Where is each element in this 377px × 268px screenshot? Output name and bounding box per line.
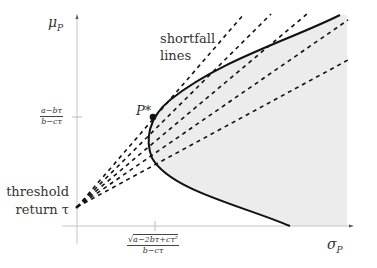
y-axis-label-sub: P bbox=[57, 23, 63, 33]
x-axis-label: σP bbox=[327, 236, 343, 255]
y-axis-arrow-icon bbox=[76, 14, 79, 19]
shortfall-lines-label: shortfall lines bbox=[160, 30, 215, 64]
x-axis-arrow-icon bbox=[349, 225, 354, 228]
x-tick-label: √a−2bτ+cτ² b−cτ bbox=[127, 235, 179, 255]
x-tick-denominator: b−cτ bbox=[143, 246, 164, 255]
y-tick-label: a−bτ b−cτ bbox=[40, 106, 63, 126]
p-star-label: P* bbox=[136, 103, 151, 118]
x-axis-label-main: σ bbox=[327, 236, 337, 252]
shortfall-label-line2: lines bbox=[160, 47, 215, 64]
y-tick-denominator: b−cτ bbox=[41, 117, 62, 126]
shortfall-label-line1: shortfall bbox=[160, 30, 215, 47]
x-tick-numerator: √a−2bτ+cτ² bbox=[127, 235, 179, 246]
p-star-text: P* bbox=[136, 103, 151, 118]
threshold-label-line1: threshold bbox=[5, 183, 69, 201]
x-axis-label-sub: P bbox=[337, 245, 343, 255]
threshold-point bbox=[76, 206, 79, 209]
y-axis-label-main: μ bbox=[48, 14, 57, 30]
threshold-label-line2: return τ bbox=[5, 201, 69, 219]
x-tick-radicand: a−2bτ+cτ² bbox=[133, 234, 178, 244]
y-tick-numerator: a−bτ bbox=[40, 106, 63, 117]
y-axis-label: μP bbox=[48, 14, 63, 33]
threshold-return-label: threshold return τ bbox=[5, 183, 69, 219]
